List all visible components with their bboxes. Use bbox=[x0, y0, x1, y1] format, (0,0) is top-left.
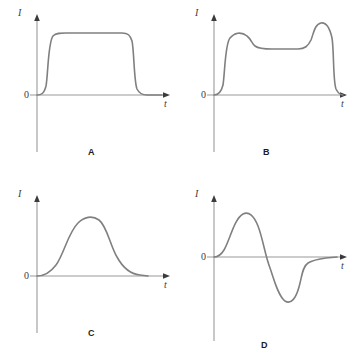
y-axis-label: I bbox=[195, 189, 198, 199]
panel-a: I 0 t A bbox=[0, 0, 178, 181]
y-axis-label: I bbox=[195, 8, 198, 18]
origin-label: 0 bbox=[201, 252, 206, 262]
x-axis-label: t bbox=[164, 99, 167, 109]
y-axis-label: I bbox=[18, 8, 21, 18]
waveform-curve-d bbox=[214, 213, 337, 302]
panel-letter-d: D bbox=[261, 341, 268, 350]
x-axis-arrow bbox=[163, 273, 170, 278]
waveform-curve-c bbox=[37, 217, 148, 276]
x-axis-label: t bbox=[164, 280, 167, 290]
panel-letter-a: A bbox=[88, 148, 95, 157]
panel-c: I 0 t C bbox=[0, 181, 178, 362]
x-axis-label: t bbox=[341, 99, 344, 109]
origin-label: 0 bbox=[24, 90, 29, 100]
y-axis-arrow bbox=[34, 195, 40, 202]
x-axis-arrow bbox=[340, 254, 347, 259]
panel-b: I 0 t B bbox=[177, 0, 355, 181]
panel-d-plot bbox=[177, 181, 355, 362]
y-axis-label: I bbox=[18, 189, 21, 199]
y-axis-arrow bbox=[34, 14, 40, 21]
waveform-curve-b bbox=[214, 23, 343, 95]
waveform-curve-a bbox=[37, 33, 162, 95]
origin-label: 0 bbox=[24, 271, 29, 281]
x-axis-arrow bbox=[163, 92, 170, 97]
y-axis-arrow bbox=[211, 195, 217, 202]
panel-letter-b: B bbox=[263, 148, 270, 157]
waveform-figure: I 0 t A I 0 t B I 0 t C bbox=[0, 0, 355, 362]
origin-label: 0 bbox=[201, 90, 206, 100]
y-axis-arrow bbox=[211, 14, 217, 21]
panel-d: I 0 t D bbox=[177, 181, 355, 362]
panel-letter-c: C bbox=[88, 329, 95, 338]
x-axis-label: t bbox=[341, 261, 344, 271]
